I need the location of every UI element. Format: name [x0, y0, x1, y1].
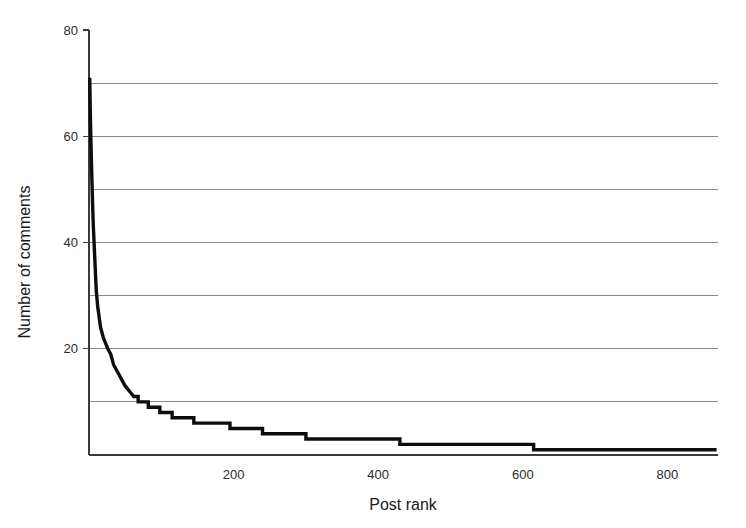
x-tick-label-800: 800 — [657, 467, 679, 482]
x-tick-label-600: 600 — [512, 467, 534, 482]
y-tick-label-60: 60 — [64, 129, 78, 144]
y-axis-title: Number of comments — [16, 186, 33, 339]
y-tick-label-group: 20406080 — [64, 23, 78, 357]
x-tick-label-group: 200400600800 — [223, 467, 678, 482]
chart-canvas: 20406080 200400600800 Post rank Number o… — [0, 0, 746, 528]
data-series-group — [90, 78, 717, 450]
gridline-group — [89, 83, 718, 402]
x-tick-label-400: 400 — [367, 467, 389, 482]
y-tick-label-20: 20 — [64, 341, 78, 356]
chart-figure: 20406080 200400600800 Post rank Number o… — [0, 0, 746, 528]
y-tick-label-80: 80 — [64, 23, 78, 38]
x-axis-title: Post rank — [369, 496, 438, 513]
y-tick-label-40: 40 — [64, 235, 78, 250]
x-tick-label-200: 200 — [223, 467, 245, 482]
series-line-0 — [90, 78, 717, 450]
y-tick-mark-group — [83, 30, 89, 349]
